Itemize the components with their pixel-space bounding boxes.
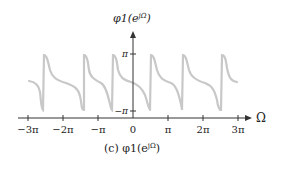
- x-axis-label: Ω: [256, 111, 266, 125]
- x-tick-label: −3π: [17, 124, 39, 135]
- y-tick-label: π: [121, 49, 129, 59]
- x-tick-label: 3π: [232, 124, 245, 135]
- x-tick-label: 0: [130, 124, 136, 135]
- chart-svg: −3π −2π −π 0 π 2π 3π π −π Ω φ1(ejΩ) (c) …: [0, 0, 285, 171]
- y-tick-label: −π: [115, 106, 130, 116]
- x-tick-label: 2π: [197, 124, 210, 135]
- y-axis-arrow-icon: [130, 31, 136, 38]
- x-axis-arrow-icon: [245, 115, 252, 121]
- x-tick-label: −2π: [52, 124, 74, 135]
- y-axis-title: φ1(ejΩ): [113, 12, 151, 25]
- chart-figure: −3π −2π −π 0 π 2π 3π π −π Ω φ1(ejΩ) (c) …: [0, 0, 285, 171]
- x-tick-label: −π: [91, 124, 106, 135]
- chart-caption: (c) φ1(ejΩ): [104, 142, 160, 155]
- x-tick-label: π: [165, 124, 172, 135]
